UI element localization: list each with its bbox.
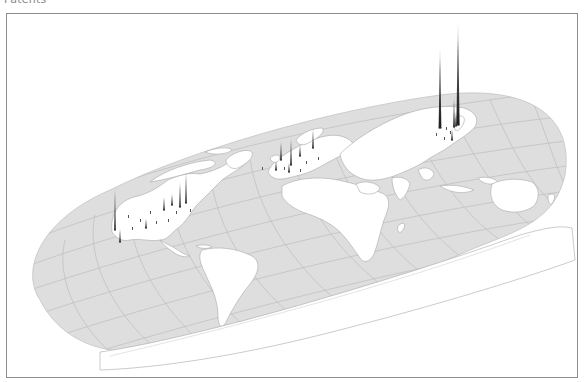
spike-base — [114, 229, 116, 231]
patent-spike — [439, 45, 442, 128]
minor-spike — [156, 221, 157, 224]
world-spike-map — [0, 0, 585, 382]
spike-base — [299, 155, 301, 157]
minor-spike — [446, 127, 447, 130]
minor-spike — [300, 169, 301, 172]
minor-spike — [450, 131, 451, 134]
spike-base — [312, 147, 314, 149]
minor-spike — [190, 209, 191, 212]
minor-spike — [168, 219, 169, 222]
patent-spike — [456, 20, 459, 125]
spike-base — [438, 127, 441, 129]
minor-spike — [262, 167, 263, 170]
spike-base — [280, 159, 282, 161]
spike-base — [145, 227, 147, 229]
minor-spike — [444, 137, 445, 140]
spike-base — [185, 202, 187, 204]
spike-base — [119, 241, 121, 243]
spike-base — [455, 125, 457, 127]
spike-base — [179, 206, 181, 208]
spike-base — [171, 204, 173, 206]
minor-spike — [284, 167, 285, 170]
minor-spike — [150, 211, 151, 214]
spike-base — [451, 139, 453, 141]
minor-spike — [132, 227, 133, 230]
minor-spike — [176, 211, 177, 214]
spike-base — [288, 171, 290, 173]
spike-base — [453, 126, 455, 128]
minor-spike — [306, 161, 307, 164]
australia — [491, 179, 539, 212]
minor-spike — [318, 157, 319, 160]
spike-base — [163, 209, 165, 211]
minor-spike — [128, 215, 129, 218]
minor-spike — [140, 219, 141, 222]
spike-base — [290, 164, 292, 166]
minor-spike — [436, 133, 437, 136]
spike-base — [275, 169, 277, 171]
